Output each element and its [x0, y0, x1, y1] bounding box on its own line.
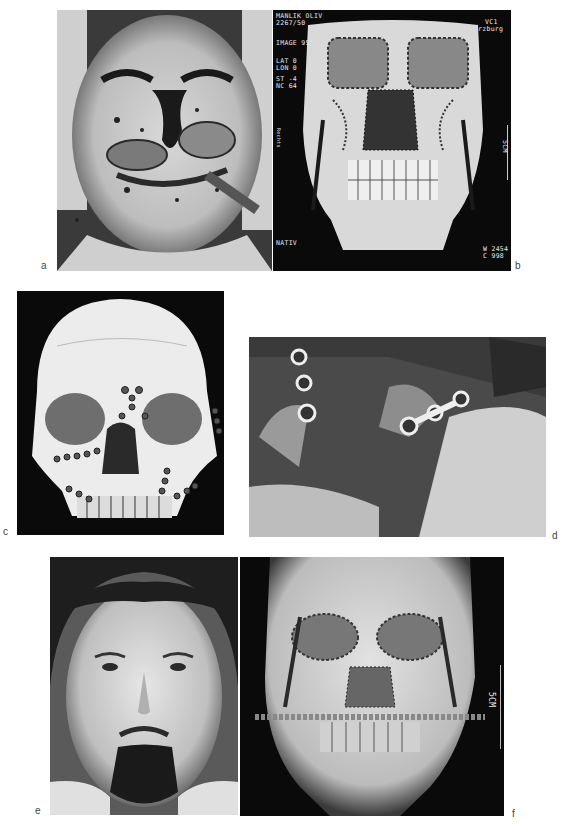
ct-scale-label-f: 5CM [488, 692, 495, 707]
panel-label-b: b [515, 260, 521, 271]
panel-e-postop-photo [50, 557, 238, 815]
intraoperative-plate-image [249, 337, 546, 537]
panel-a-preop-photo [57, 10, 272, 271]
ct-side-label: Rechts [275, 128, 282, 148]
panel-label-a: a [41, 260, 47, 271]
ct-institution-city: rzburg [478, 26, 503, 33]
panel-b-ct-preop: MANLIK OLIV 2267/50 IMAGE 95 LAT 0 LON 0… [273, 10, 511, 271]
ct-nc: NC 64 [276, 83, 297, 90]
ct-skull-fracture-image [273, 10, 511, 271]
panel-label-f: f [512, 808, 515, 819]
injured-face-image [57, 10, 272, 271]
panel-label-e: e [35, 805, 41, 816]
panel-d-intraop [249, 337, 546, 537]
postop-face-image [50, 557, 238, 815]
ct-skull-postop-image [240, 557, 504, 816]
ct-image-number: IMAGE 95 [276, 40, 310, 47]
panel-label-c: c [3, 526, 8, 537]
panel-f-ct-postop: 5CM [240, 557, 504, 816]
panel-c-skull-model [17, 291, 224, 535]
skull-plates-image [17, 291, 224, 535]
panel-label-d: d [552, 530, 558, 541]
ct-lon: LON 0 [276, 65, 297, 72]
ct-mode: NATIV [276, 240, 297, 247]
ct-window-center: C 998 [483, 253, 504, 260]
ct-scale-bar [507, 125, 508, 180]
ct-patient-id: 2267/50 [276, 20, 306, 27]
ct-scale-bar-f [500, 665, 501, 749]
